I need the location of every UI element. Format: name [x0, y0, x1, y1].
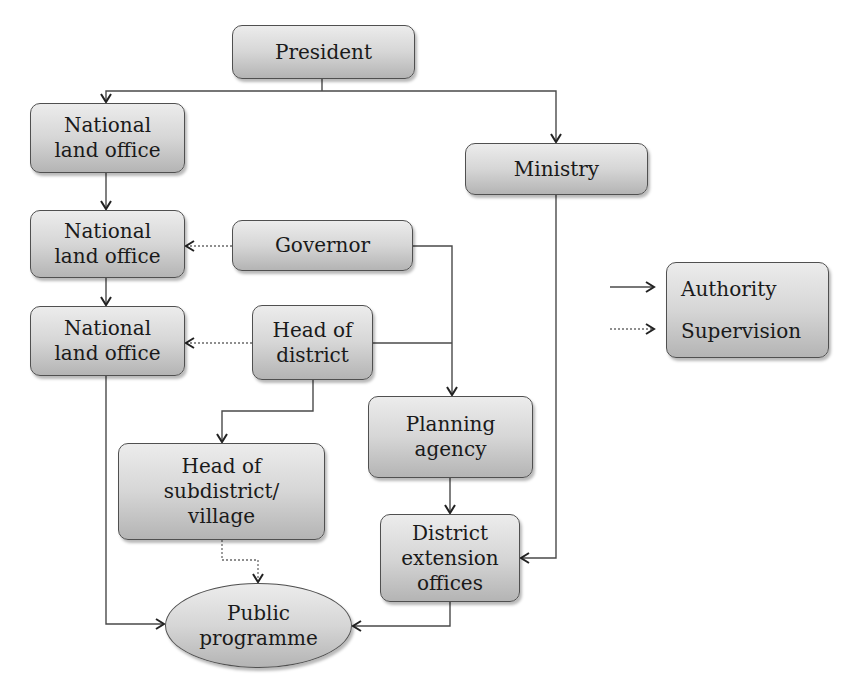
node-label-line: National: [64, 219, 151, 244]
node-label-line: village: [188, 504, 255, 529]
edge-extension-to-public: [353, 602, 450, 626]
node-planning-agency: Planning agency: [368, 396, 533, 478]
node-head-of-subdistrict: Head of subdistrict/ village: [118, 443, 325, 540]
node-label-line: Planning: [406, 412, 496, 437]
node-national-land-office-2: National land office: [30, 210, 185, 278]
edge-president-to-nlo1: [106, 91, 322, 102]
edge-ministry-to-extension: [521, 195, 556, 558]
node-ministry: Ministry: [465, 143, 648, 195]
node-label-line: Public: [227, 601, 290, 626]
edge-president-to-ministry: [322, 91, 556, 142]
node-label-line: extension: [401, 546, 498, 571]
node-label-line: land office: [54, 341, 160, 366]
node-governor: Governor: [232, 220, 413, 271]
node-label-line: district: [276, 343, 349, 368]
node-label-line: land office: [54, 244, 160, 269]
edge-subdistrict-to-public: [222, 540, 258, 582]
node-label: President: [275, 40, 372, 65]
node-label-line: offices: [417, 571, 483, 596]
node-label-line: National: [64, 113, 151, 138]
node-label-line: land office: [54, 138, 160, 163]
node-label-line: agency: [415, 437, 487, 462]
node-president: President: [232, 25, 415, 79]
edge-head-district-to-subdistrict: [222, 380, 313, 442]
node-label: Ministry: [514, 157, 599, 182]
node-label-line: National: [64, 316, 151, 341]
node-district-extension-offices: District extension offices: [380, 514, 520, 602]
node-label-line: programme: [199, 626, 317, 651]
node-label-line: subdistrict/: [164, 479, 279, 504]
node-national-land-office-3: National land office: [30, 306, 185, 376]
node-label: Governor: [275, 233, 370, 258]
legend-box: Authority Supervision: [666, 262, 829, 358]
node-public-programme: Public programme: [165, 583, 352, 668]
legend-supervision-label: Supervision: [681, 310, 801, 352]
edge-governor-to-planning: [413, 246, 452, 395]
node-label-line: Head of: [182, 454, 262, 479]
node-label-line: District: [412, 521, 488, 546]
node-label-line: Head of: [273, 318, 353, 343]
legend-authority-label: Authority: [681, 268, 777, 310]
node-head-of-district: Head of district: [252, 305, 373, 380]
node-national-land-office-1: National land office: [30, 103, 185, 173]
